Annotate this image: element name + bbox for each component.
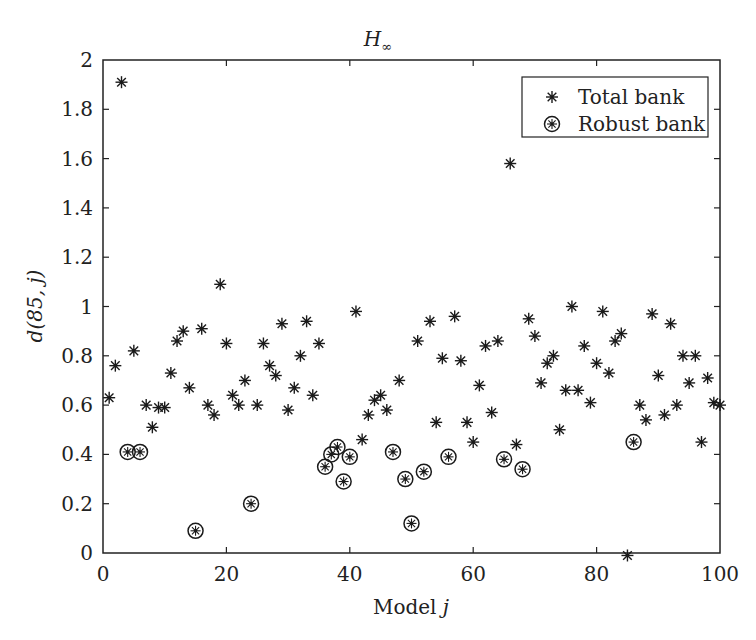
asterisk-marker	[276, 318, 288, 330]
asterisk-marker	[220, 337, 232, 349]
y-axis-label: d(85, j)	[23, 270, 47, 343]
circled-asterisk-marker	[188, 523, 203, 538]
asterisk-marker	[646, 308, 658, 320]
asterisk-marker	[381, 404, 393, 416]
asterisk-marker	[208, 409, 220, 421]
asterisk-marker	[183, 382, 195, 394]
asterisk-marker	[116, 76, 128, 88]
asterisk-marker	[109, 360, 121, 372]
y-tick-label: 1	[80, 295, 93, 319]
asterisk-marker	[566, 301, 578, 313]
asterisk-marker	[473, 379, 485, 391]
asterisk-marker	[301, 315, 313, 327]
series-total-bank	[103, 76, 726, 561]
asterisk-marker	[529, 330, 541, 342]
asterisk-marker	[294, 350, 306, 362]
asterisk-marker	[375, 389, 387, 401]
asterisk-marker	[677, 350, 689, 362]
asterisk-marker	[665, 318, 677, 330]
asterisk-marker	[640, 414, 652, 426]
asterisk-marker	[547, 350, 559, 362]
circled-asterisk-marker	[626, 435, 641, 450]
asterisk-marker	[177, 325, 189, 337]
circled-asterisk-marker	[385, 444, 400, 459]
asterisk-marker	[436, 352, 448, 364]
y-tick-label: 1.4	[61, 196, 93, 220]
asterisk-marker	[541, 357, 553, 369]
asterisk-marker	[412, 335, 424, 347]
asterisk-marker	[449, 310, 461, 322]
asterisk-marker	[282, 404, 294, 416]
asterisk-marker	[584, 397, 596, 409]
asterisk-marker	[356, 434, 368, 446]
asterisk-marker	[368, 394, 380, 406]
asterisk-marker	[702, 372, 714, 384]
y-tick-label: 0.8	[61, 344, 93, 368]
asterisk-marker	[288, 382, 300, 394]
asterisk-marker	[227, 389, 239, 401]
legend: Total bank Robust bank	[522, 77, 708, 137]
y-tick-label: 0.4	[61, 442, 93, 466]
circled-asterisk-marker	[441, 449, 456, 464]
asterisk-marker	[714, 399, 726, 411]
asterisk-marker	[572, 384, 584, 396]
asterisk-marker	[128, 345, 140, 357]
asterisk-marker	[560, 384, 572, 396]
asterisk-marker	[535, 377, 547, 389]
data-points	[103, 76, 726, 561]
circled-asterisk-marker	[497, 452, 512, 467]
asterisk-marker	[523, 313, 535, 325]
circled-asterisk-marker	[336, 474, 351, 489]
asterisk-marker	[510, 439, 522, 451]
asterisk-marker	[270, 370, 282, 382]
y-tick-label: 1.6	[61, 147, 93, 171]
legend-label-total: Total bank	[578, 85, 685, 109]
x-tick-label: 100	[701, 562, 739, 586]
y-tick-label: 1.8	[61, 97, 93, 121]
x-tick-label: 20	[214, 562, 239, 586]
asterisk-marker	[313, 337, 325, 349]
asterisk-marker	[695, 436, 707, 448]
asterisk-marker	[257, 337, 269, 349]
asterisk-marker	[486, 406, 498, 418]
asterisk-marker	[264, 360, 276, 372]
circled-asterisk-marker	[398, 472, 413, 487]
asterisk-marker	[159, 402, 171, 414]
asterisk-marker	[683, 377, 695, 389]
asterisk-marker	[362, 409, 374, 421]
asterisk-marker	[171, 335, 183, 347]
asterisk-marker	[578, 340, 590, 352]
asterisk-marker	[307, 389, 319, 401]
asterisk-marker	[554, 424, 566, 436]
asterisk-marker	[140, 399, 152, 411]
circled-asterisk-marker	[404, 516, 419, 531]
asterisk-marker	[393, 374, 405, 386]
asterisk-marker	[424, 315, 436, 327]
asterisk-marker	[214, 278, 226, 290]
asterisk-marker	[480, 340, 492, 352]
asterisk-marker	[430, 416, 442, 428]
asterisk-marker	[652, 370, 664, 382]
asterisk-marker	[146, 421, 158, 433]
asterisk-marker	[233, 399, 245, 411]
y-tick-label: 0	[80, 541, 93, 565]
asterisk-marker	[609, 335, 621, 347]
y-tick-label: 0.2	[61, 492, 93, 516]
asterisk-marker	[202, 399, 214, 411]
asterisk-marker	[492, 335, 504, 347]
chart-title: H∞	[363, 27, 392, 54]
circled-asterisk-marker	[342, 449, 357, 464]
scatter-chart: H∞ 02040608010000.20.40.60.811.21.41.61.…	[0, 0, 756, 640]
asterisk-marker	[689, 350, 701, 362]
asterisk-marker	[597, 305, 609, 317]
asterisk-marker	[196, 323, 208, 335]
asterisk-marker	[461, 416, 473, 428]
x-axis-label: Model j	[373, 595, 449, 619]
y-tick-label: 1.2	[61, 245, 93, 269]
asterisk-marker	[165, 367, 177, 379]
asterisk-marker	[658, 409, 670, 421]
circled-asterisk-marker	[244, 496, 259, 511]
asterisk-marker	[615, 328, 627, 340]
series-robust-bank	[120, 435, 641, 539]
asterisk-marker	[467, 436, 479, 448]
